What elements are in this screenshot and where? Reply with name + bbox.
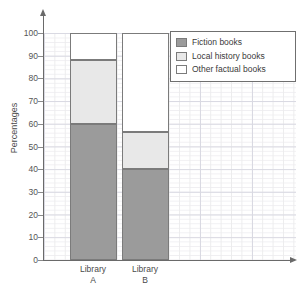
y-tick-label-0: 0 xyxy=(12,256,38,265)
legend-item-other-factual[interactable]: Other factual books xyxy=(176,63,290,77)
x-label-library-b-line2: B xyxy=(110,275,180,286)
y-tick-label-100: 100 xyxy=(12,29,38,38)
legend: Fiction books Local history books Other … xyxy=(170,31,296,82)
y-tick-label-20: 20 xyxy=(12,211,38,220)
legend-swatch-local-history xyxy=(176,52,187,61)
legend-item-fiction[interactable]: Fiction books xyxy=(176,36,290,50)
stacked-bar-chart: 100 90 80 70 60 50 40 30 20 10 0 Percent… xyxy=(0,0,304,294)
legend-swatch-other-factual xyxy=(176,65,187,74)
x-label-library-b-line1: Library xyxy=(110,264,180,275)
legend-swatch-fiction xyxy=(176,38,187,47)
y-tick-label-90: 90 xyxy=(12,52,38,61)
legend-item-local-history[interactable]: Local history books xyxy=(176,50,290,64)
y-axis-title: Percentages xyxy=(9,80,19,176)
y-tick-label-30: 30 xyxy=(12,188,38,197)
x-label-library-b: Library B xyxy=(110,264,180,286)
legend-label-local-history: Local history books xyxy=(192,52,265,61)
legend-label-fiction: Fiction books xyxy=(192,38,242,47)
y-tick-label-10: 10 xyxy=(12,233,38,242)
legend-label-other-factual: Other factual books xyxy=(192,65,266,74)
